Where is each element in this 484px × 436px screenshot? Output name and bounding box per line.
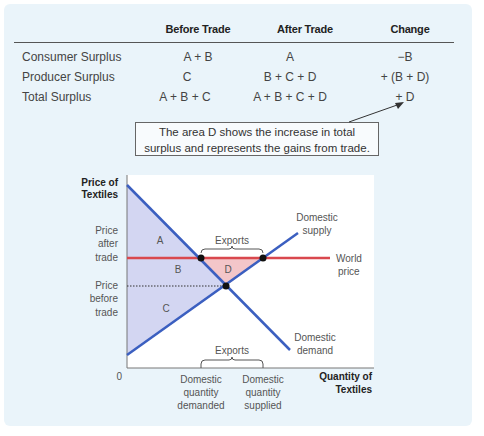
origin-label: 0 (116, 371, 122, 382)
world-price-label-2: price (338, 266, 360, 277)
region-b-label: B (175, 264, 182, 275)
qs-label-2: quantity (245, 387, 280, 398)
supply-demand-chart: Price of Textiles Price after trade Pric… (0, 0, 484, 436)
qs-label-1: Domestic (242, 374, 284, 385)
price-before-label-2: before (90, 293, 119, 304)
price-before-label-1: Price (95, 280, 118, 291)
qd-label-2: quantity (183, 387, 218, 398)
price-after-label-2: after (98, 238, 119, 249)
qd-label-1: Domestic (180, 374, 222, 385)
region-d-label: D (224, 264, 231, 275)
demand-label-1: Domestic (294, 332, 336, 343)
demand-label-2: demand (297, 345, 333, 356)
qd-point (198, 255, 205, 262)
exports-bottom-label: Exports (215, 345, 249, 356)
y-axis-label-1: Price of (81, 177, 118, 188)
qs-label-3: supplied (244, 400, 281, 411)
price-after-label-1: Price (95, 225, 118, 236)
price-before-label-3: trade (95, 307, 118, 318)
region-a-label: A (157, 235, 164, 246)
supply-label-2: supply (303, 225, 332, 236)
price-after-label-3: trade (95, 252, 118, 263)
x-axis-label-1: Quantity of (319, 371, 372, 382)
qs-point (260, 255, 267, 262)
y-axis-label-2: Textiles (82, 189, 119, 200)
supply-label-1: Domestic (296, 212, 338, 223)
qd-label-3: demanded (177, 400, 224, 411)
region-c-label: C (162, 303, 169, 314)
callout-arrow (349, 102, 404, 122)
exports-top-label: Exports (215, 235, 249, 246)
x-axis-label-2: Textiles (336, 384, 373, 395)
equilibrium-point (223, 283, 230, 290)
world-price-label-1: World (336, 253, 362, 264)
